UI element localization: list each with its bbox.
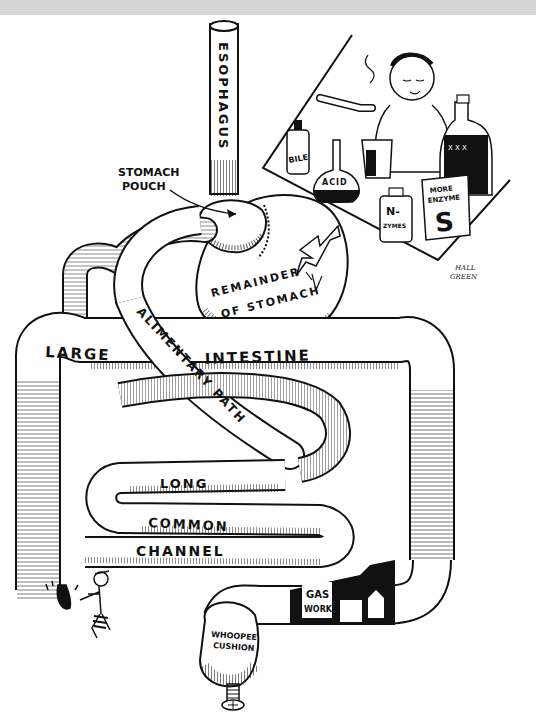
acid-label: ACID <box>322 178 348 187</box>
digestive-cartoon: ESOPHAGUS STOMACH POUCH REMAINDER OF STO… <box>0 0 536 715</box>
nzymes-label-line2: ZYMES <box>383 222 406 229</box>
channel-label: CHANNEL <box>136 543 225 559</box>
stomach-pouch-label-line1: STOMACH <box>118 166 180 179</box>
nzymes-label-line1: N- <box>386 205 400 218</box>
esophagus-label: ESOPHAGUS <box>216 42 231 150</box>
signature-line1: HALL <box>454 264 476 272</box>
box-big-s: S <box>433 206 455 238</box>
gas-label: GAS <box>306 589 329 600</box>
large-label: LARGE <box>45 343 111 364</box>
works-label: WORKS <box>304 605 338 614</box>
jug-marks: X X X <box>448 144 467 152</box>
stomach-pouch-label-line2: POUCH <box>122 180 166 193</box>
long-label: LONG <box>160 476 208 491</box>
signature-line2: GREEN <box>450 273 478 281</box>
intestine-label: INTESTINE <box>205 346 312 368</box>
